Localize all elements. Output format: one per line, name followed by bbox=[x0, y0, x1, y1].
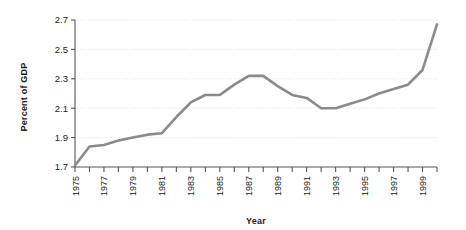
x-tick-label: 1995 bbox=[360, 176, 370, 196]
x-tick-marks bbox=[75, 167, 437, 172]
x-tick-label: 1975 bbox=[71, 176, 81, 196]
x-tick-label: 1991 bbox=[302, 176, 312, 196]
y-tick-labels: 1.71.92.12.32.52.7 bbox=[55, 14, 68, 172]
y-axis-title: Percent of GDP bbox=[19, 63, 29, 132]
data-series-line bbox=[75, 24, 437, 165]
y-tick-label: 2.3 bbox=[55, 73, 68, 84]
y-tick-label: 1.9 bbox=[55, 132, 68, 143]
y-axis: 1.71.92.12.32.52.7 bbox=[55, 14, 75, 172]
x-tick-label: 1987 bbox=[244, 176, 254, 196]
x-axis-title: Year bbox=[246, 216, 266, 226]
x-tick-label: 1997 bbox=[389, 176, 399, 196]
x-tick-label: 1977 bbox=[99, 176, 109, 196]
y-tick-label: 2.1 bbox=[55, 103, 68, 114]
x-tick-label: 1989 bbox=[273, 176, 283, 196]
x-tick-label: 1993 bbox=[331, 176, 341, 196]
y-tick-marks bbox=[71, 20, 75, 167]
x-tick-label: 1983 bbox=[186, 176, 196, 196]
line-chart: 1.71.92.12.32.52.7 197519771979198119831… bbox=[0, 0, 466, 230]
chart-container: 1.71.92.12.32.52.7 197519771979198119831… bbox=[0, 0, 466, 230]
gridlines bbox=[75, 20, 437, 138]
x-tick-label: 1985 bbox=[215, 176, 225, 196]
y-tick-label: 2.5 bbox=[55, 44, 68, 55]
x-tick-label: 1999 bbox=[418, 176, 428, 196]
y-tick-label: 2.7 bbox=[55, 14, 68, 25]
y-tick-label: 1.7 bbox=[55, 161, 68, 172]
x-tick-label: 1981 bbox=[157, 176, 167, 196]
x-tick-label: 1979 bbox=[128, 176, 138, 196]
x-axis: 1975197719791981198319851987198919911993… bbox=[71, 167, 438, 196]
x-tick-labels: 1975197719791981198319851987198919911993… bbox=[71, 176, 429, 196]
